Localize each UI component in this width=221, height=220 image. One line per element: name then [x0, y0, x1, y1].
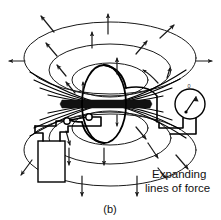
expanding-lines-of-force-diagram: 0 Expanding lines of force (b) — [0, 0, 221, 220]
field-arrow-up-mid-right — [136, 41, 147, 54]
meter-body — [175, 89, 205, 119]
figure-container: 0 Expanding lines of force (b) — [0, 0, 221, 220]
field-arrow-down-inner-right — [136, 127, 146, 139]
field-arrow-down-right-outer — [176, 155, 188, 169]
upper-field-loops — [24, 22, 196, 97]
meter-pivot — [184, 110, 187, 113]
battery — [35, 126, 68, 182]
switch-contact-left — [64, 118, 70, 124]
field-arrow-up-right-outer — [160, 25, 174, 38]
field-arrow-down-inner-left — [66, 131, 70, 145]
upper-field-arrows — [9, 14, 212, 93]
annotation-line-1: Expanding — [152, 168, 206, 180]
field-arrow-up-left-outer — [41, 16, 54, 32]
field-arrow-up-mid-left — [46, 43, 57, 56]
meter-scale-mark: 0 — [187, 83, 190, 89]
core-bundle — [60, 100, 152, 108]
annotation-group: Expanding lines of force (b) — [103, 168, 210, 215]
battery-body — [38, 141, 65, 182]
field-arrow-down-mid-right — [148, 143, 158, 158]
field-arrow-down-left-outer — [21, 160, 32, 175]
figure-caption: (b) — [103, 203, 116, 215]
field-arrow-up-curve-right — [143, 70, 158, 83]
field-arrow-up-inner-left — [57, 65, 66, 76]
annotation-line-2: lines of force — [145, 182, 210, 194]
